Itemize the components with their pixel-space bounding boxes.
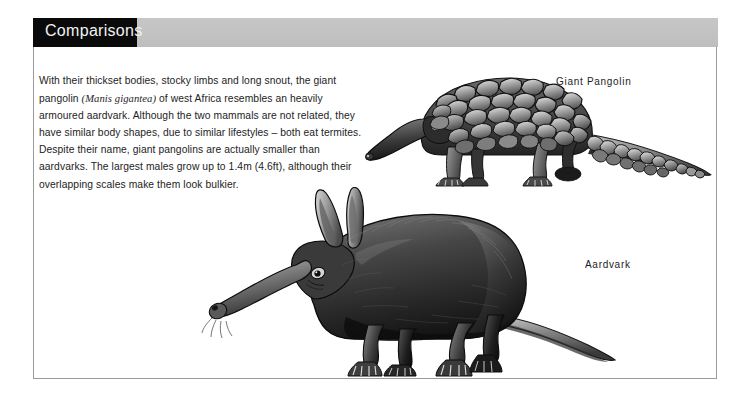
content-panel: With their thickset bodies, stocky limbs… bbox=[33, 47, 717, 379]
header-band: Comparisons bbox=[33, 18, 718, 47]
scientific-name: (Manis gigantea) bbox=[82, 93, 157, 104]
body-paragraph: With their thickset bodies, stocky limbs… bbox=[39, 72, 369, 192]
giant-pangolin-illustration bbox=[352, 57, 717, 187]
label-aardvark: Aardvark bbox=[585, 259, 631, 270]
aardvark-artwork bbox=[202, 188, 615, 377]
page-title: Comparisons bbox=[45, 22, 143, 40]
pangolin-artwork bbox=[366, 78, 713, 186]
comparisons-page: Comparisons With their thickset bodies, … bbox=[0, 0, 750, 401]
body-text-part-2: of west Africa resembles an heavily armo… bbox=[39, 93, 361, 190]
label-giant-pangolin: Giant Pangolin bbox=[556, 76, 631, 87]
aardvark-illustration bbox=[196, 187, 651, 377]
